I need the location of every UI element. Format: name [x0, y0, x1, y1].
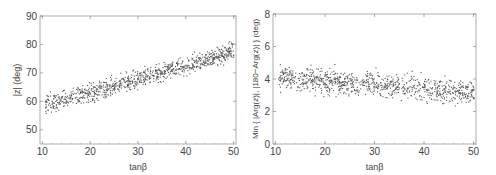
- y-tick-label: 80: [26, 39, 38, 50]
- scatter-plot-abs-z: 10203040505060708090tanβ|z| (deg): [0, 0, 248, 175]
- chart-left-panel: 10203040505060708090tanβ|z| (deg): [0, 0, 248, 175]
- x-tick-label: 30: [369, 146, 381, 157]
- x-axis-label: tanβ: [129, 162, 147, 172]
- y-tick-label: 0: [264, 139, 270, 150]
- y-tick-label: 90: [26, 11, 38, 22]
- x-tick-label: 30: [132, 146, 144, 157]
- x-tick-label: 50: [468, 146, 480, 157]
- x-tick-label: 20: [85, 146, 97, 157]
- x-axis-label: tanβ: [366, 162, 384, 172]
- x-tick-label: 10: [270, 146, 282, 157]
- y-tick-label: 4: [264, 74, 270, 85]
- y-axis-label: Min { |Arg(z)|, |180−Arg(z)| } (deg): [251, 19, 260, 139]
- y-tick-label: 8: [264, 9, 270, 20]
- scatter-plot-min-arg-z: 102030405002468tanβMin { |Arg(z)|, |180−…: [248, 0, 496, 175]
- y-tick-label: 2: [264, 106, 270, 117]
- y-tick-label: 6: [264, 41, 270, 52]
- x-tick-label: 10: [37, 146, 49, 157]
- chart-right-panel: 102030405002468tanβMin { |Arg(z)|, |180−…: [248, 0, 496, 175]
- x-tick-label: 50: [228, 146, 240, 157]
- scatter-points: [45, 41, 235, 114]
- y-tick-label: 60: [26, 96, 38, 107]
- x-tick-label: 40: [418, 146, 430, 157]
- x-tick-label: 40: [180, 146, 192, 157]
- scatter-points: [278, 64, 475, 107]
- x-tick-label: 20: [319, 146, 331, 157]
- y-tick-label: 70: [26, 67, 38, 78]
- y-axis-label: |z| (deg): [12, 64, 22, 97]
- y-tick-label: 50: [26, 124, 38, 135]
